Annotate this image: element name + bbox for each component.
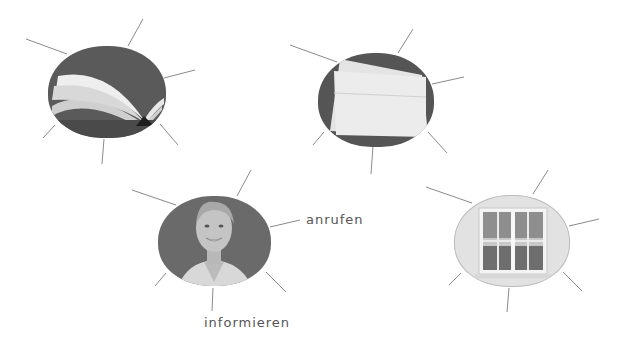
- word-informieren: informieren: [204, 315, 290, 330]
- word-anrufen: anrufen: [306, 212, 364, 227]
- envelope-image: [318, 53, 434, 147]
- book-image: [48, 46, 166, 138]
- window-image: [454, 195, 570, 287]
- woman-portrait-image: [158, 196, 271, 286]
